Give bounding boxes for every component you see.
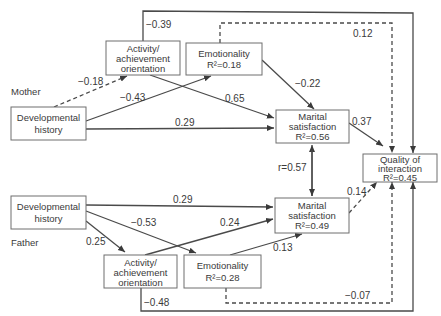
coef-m-dev-emotion: −0.43 [120,92,146,103]
coef-f-marital-quality: 0.14 [347,186,367,197]
node-father-marital-satisfaction: Marital satisfaction R²=0.49 [275,198,349,233]
node-label: Emotionality [197,260,249,271]
node-quality-of-interaction: Quality of interaction R²=0.45 [363,154,437,183]
coef-m-activity-marital: 0.65 [225,93,245,104]
path-m-dev-marital [86,128,274,129]
node-label: history [35,213,63,224]
node-father-emotionality: Emotionality R²=0.28 [184,255,261,288]
path-m-activity-marital [150,75,274,118]
node-label: Emotionality [198,48,250,59]
r-squared: R²=0.45 [383,172,417,183]
coef-f-emotion-marital: 0.13 [273,242,293,253]
node-father-developmental-history: Developmental history [11,196,86,229]
r-squared: R²=0.28 [205,272,239,283]
coef-f-dev-activity: 0.25 [86,236,106,247]
r-squared: R²=0.56 [295,131,329,142]
coef-marital-correlation: r=0.57 [278,162,307,173]
path-f-activity-marital [145,219,273,255]
coef-m-dev-activity: −0.18 [78,76,104,87]
node-mother-emotionality: Emotionality R²=0.18 [186,43,262,75]
coef-m-dev-marital: 0.29 [175,117,195,128]
node-label: Developmental [17,112,80,123]
coef-m-activity-quality: −0.39 [146,19,172,30]
node-mother-marital-satisfaction: Marital satisfaction R²=0.56 [276,110,349,143]
path-diagram: Developmental history Activity/ achievem… [0,0,441,316]
node-mother-developmental-history: Developmental history [11,107,86,140]
node-label: history [35,124,63,135]
node-label: Developmental [17,201,80,212]
r-squared: R²=0.49 [295,220,329,231]
r-squared: R²=0.18 [207,59,241,70]
coef-m-marital-quality: 0.37 [352,116,372,127]
node-father-activity-orientation: Activity/ achievement orientation [104,255,177,288]
node-label: orientation [118,277,162,288]
coef-f-dev-emotion: −0.53 [131,217,157,228]
coef-f-dev-marital: 0.29 [173,194,193,205]
path-f-dev-marital [86,205,273,207]
path-m-dev-emotion [86,76,211,121]
coef-m-emotion-quality: 0.12 [353,28,373,39]
coef-m-emotion-marital: −0.22 [295,78,321,89]
coef-f-activity-quality: −0.48 [144,297,170,308]
coef-f-activity-marital: 0.24 [220,217,240,228]
group-label-father: Father [11,237,38,248]
node-label: orientation [121,63,165,74]
group-label-mother: Mother [11,86,41,97]
node-mother-activity-orientation: Activity/ achievement orientation [106,41,180,75]
coef-f-emotion-quality: −0.07 [345,290,371,301]
